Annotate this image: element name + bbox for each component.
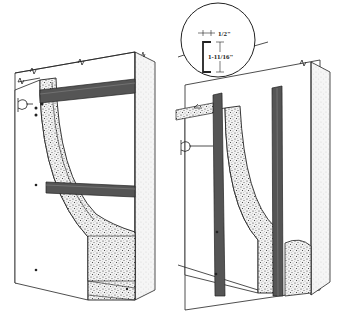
right-insulation-right: [285, 240, 311, 296]
screw-icon: [35, 107, 38, 110]
left-wall-side: [135, 52, 155, 300]
depth-dimension-label: 1-11/16": [208, 53, 233, 61]
screw-icon: [215, 273, 218, 276]
channel-profile-detail: 1/2" 1-11/16": [178, 3, 268, 77]
wall-assembly-diagram: 1/2" 1-11/16": [0, 0, 342, 313]
right-figure: 1/2" 1-11/16": [176, 3, 330, 310]
screw-icon: [216, 231, 219, 234]
screw-icon: [35, 184, 38, 187]
screw-icon: [41, 103, 44, 106]
left-figure: [15, 52, 155, 300]
flange-dimension-label: 1/2": [218, 30, 231, 38]
screw-icon: [35, 114, 38, 117]
screw-icon: [35, 269, 38, 272]
right-wall-side: [311, 62, 330, 295]
